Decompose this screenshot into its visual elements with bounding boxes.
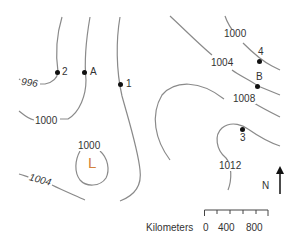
station-1-label: 1 [126,79,132,89]
scale-tick-0: 0 [203,222,209,233]
scale-title: Kilometers [146,222,193,233]
isobar-label-1000-low: 1000 [77,141,101,151]
station-a-dot [82,70,87,75]
weather-map: 996 1000 1000 1000 1004 1004 1008 1012 2… [0,0,292,243]
isobar-label-1012: 1012 [218,161,242,171]
isobar-label-1000-west: 1000 [34,116,58,126]
station-2-dot [55,70,60,75]
north-arrow: N [268,166,288,196]
north-label: N [262,181,269,191]
station-3-label: 3 [240,133,246,143]
scale-bar [204,208,274,218]
north-arrow-icon [268,166,288,196]
scale-tick-400: 400 [218,222,235,233]
scale-tick-800: 800 [246,222,263,233]
station-4-label: 4 [258,47,264,57]
station-4-dot [257,59,262,64]
isobar-label-1008: 1008 [232,94,256,104]
station-1-dot [118,82,123,87]
isobar-label-1004-ne: 1004 [210,58,234,68]
station-b-label: B [256,72,263,82]
low-pressure-symbol: L [88,155,96,170]
station-2-label: 2 [62,67,68,77]
isobar-label-1000-ne: 1000 [223,29,247,39]
station-a-label: A [90,67,97,77]
station-b-dot [255,84,260,89]
